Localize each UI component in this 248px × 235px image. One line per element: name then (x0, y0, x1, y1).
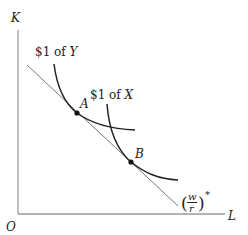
point-b-marker (128, 159, 133, 164)
fraction-denominator: r (189, 203, 194, 214)
wage-rental-label: ( w r ) * (181, 191, 221, 215)
curve-y-label: $1 of Y (35, 46, 78, 58)
superscript-star: * (205, 189, 210, 200)
wage-rental-line (27, 65, 178, 206)
point-a-marker (74, 110, 79, 115)
paren-close: ) (198, 193, 205, 213)
fraction-numerator: w (188, 191, 197, 202)
curve-x-label-prefix: $1 of (90, 88, 125, 102)
origin-label: O (6, 221, 16, 233)
isocost-curve-x (107, 104, 178, 180)
curve-y-label-prefix: $1 of (35, 45, 70, 59)
curve-x-label: $1 of X (90, 89, 133, 101)
y-axis-label: K (11, 12, 20, 24)
x-axis-label: L (228, 210, 236, 222)
paren-open: ( (181, 193, 188, 213)
point-a-label: A (80, 98, 89, 110)
curve-y-label-var: Y (70, 45, 78, 59)
point-b-label: B (135, 148, 144, 160)
curve-x-label-var: X (125, 88, 134, 102)
